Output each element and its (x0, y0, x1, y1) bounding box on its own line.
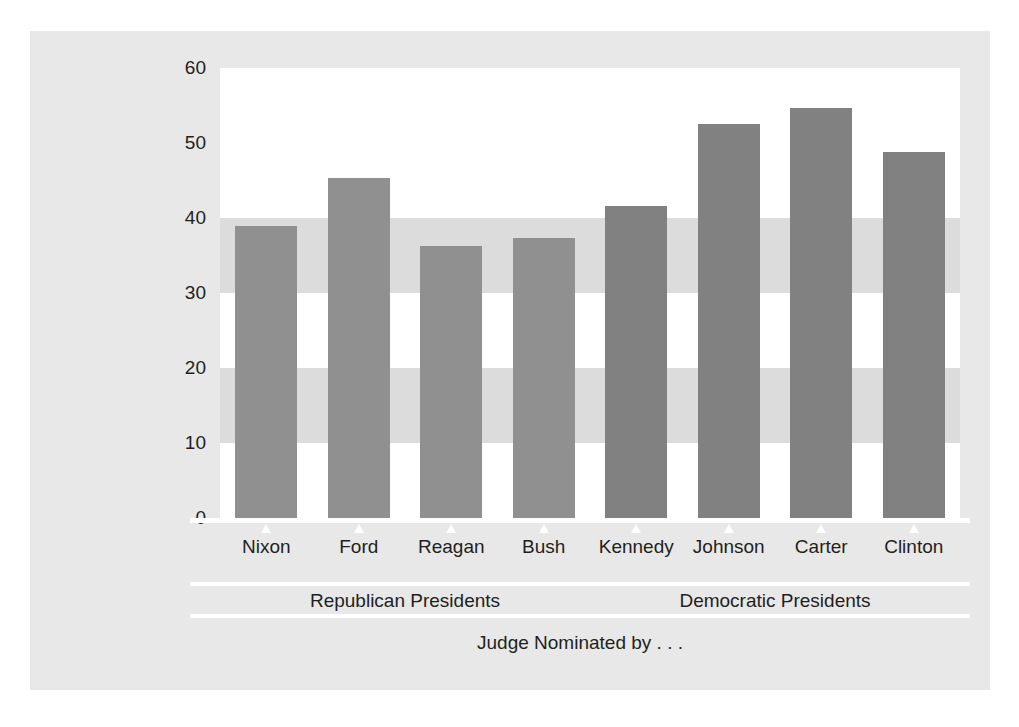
x-axis-label-kennedy: Kennedy (599, 536, 674, 558)
x-axis-line (190, 518, 970, 523)
chart-figure: Policy Direction of Decision (percentage… (30, 31, 990, 690)
x-axis-label-reagan: Reagan (418, 536, 485, 558)
x-axis-label-ford: Ford (339, 536, 378, 558)
bar-clinton (883, 152, 945, 518)
x-axis-label-carter: Carter (795, 536, 848, 558)
x-axis-tickmark (909, 524, 919, 533)
bar-carter (790, 108, 852, 518)
x-axis-tickmark (816, 524, 826, 533)
y-axis-tick-label: 30 (185, 282, 206, 304)
group-label-republican: Republican Presidents (310, 590, 500, 612)
x-axis-label-johnson: Johnson (693, 536, 765, 558)
x-axis-tickmark (631, 524, 641, 533)
x-axis-label-clinton: Clinton (884, 536, 943, 558)
x-axis-tickmark (261, 524, 271, 533)
y-axis-tick-label: 40 (185, 207, 206, 229)
bar-johnson (698, 124, 760, 519)
x-axis-tickmark (724, 524, 734, 533)
bar-reagan (420, 246, 482, 518)
group-label-democratic: Democratic Presidents (679, 590, 870, 612)
y-axis-tick-label: 20 (185, 357, 206, 379)
group-rule-bottom (190, 614, 970, 618)
group-rule-top (190, 582, 970, 586)
bar-bush (513, 238, 575, 518)
plot-area: 0102030405060 (220, 68, 960, 518)
x-axis-tickmark (354, 524, 364, 533)
x-axis-tickmark (539, 524, 549, 533)
bar-ford (328, 178, 390, 518)
bar-kennedy (605, 206, 667, 518)
x-axis-label-bush: Bush (522, 536, 565, 558)
x-axis-label-nixon: Nixon (242, 536, 291, 558)
y-axis-tick-label: 10 (185, 432, 206, 454)
bar-nixon (235, 226, 297, 519)
y-axis-tick-label: 60 (185, 57, 206, 79)
y-axis-tick-label: 50 (185, 132, 206, 154)
x-axis-tickmark (446, 524, 456, 533)
y-axis-title: Policy Direction of Decision (percentage… (82, 0, 122, 68)
bar-series (220, 68, 960, 518)
x-axis-title: Judge Nominated by . . . (477, 632, 683, 654)
